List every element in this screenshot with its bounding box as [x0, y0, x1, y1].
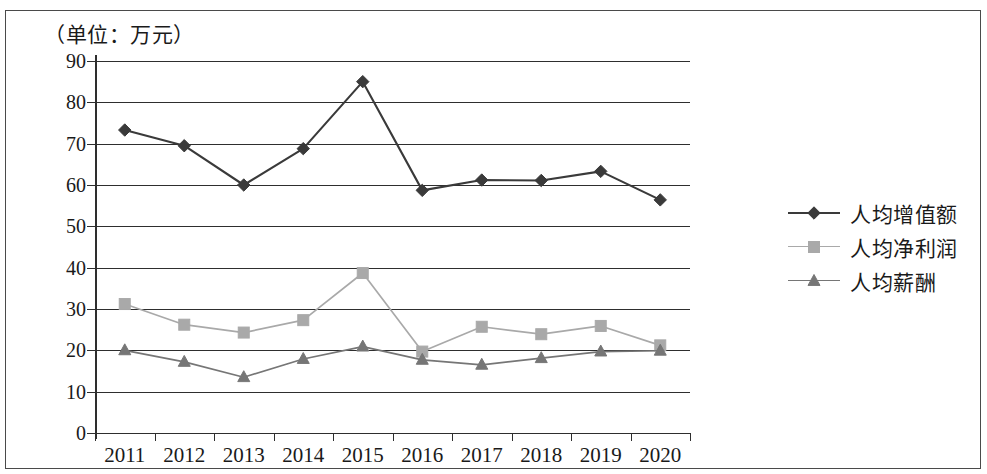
- y-axis-tick-label: 80: [40, 92, 86, 112]
- plot-area: [95, 61, 690, 433]
- square-marker-icon: [179, 319, 190, 330]
- square-marker-icon: [298, 315, 309, 326]
- y-axis-labels: 0102030405060708090: [34, 61, 86, 433]
- legend-item[interactable]: 人均增值额: [788, 196, 968, 230]
- triangle-marker-icon: [808, 274, 820, 285]
- y-axis-tick-mark: [87, 102, 95, 103]
- y-axis-tick-mark: [87, 309, 95, 310]
- diamond-marker-icon: [178, 140, 190, 152]
- y-axis-tick-label: 70: [40, 134, 86, 154]
- legend-item-label: 人均净利润: [850, 232, 958, 262]
- diamond-marker-icon: [654, 194, 666, 206]
- diamond-marker-icon: [238, 179, 250, 191]
- x-axis-tick-mark: [571, 433, 572, 441]
- y-axis-tick-mark: [87, 144, 95, 145]
- y-axis-tick-label: 20: [40, 340, 86, 360]
- x-axis-tick-label: 2019: [571, 443, 631, 467]
- diamond-marker-icon: [595, 165, 607, 177]
- legend-item-label: 人均增值额: [850, 198, 958, 228]
- x-axis-ticks: [95, 433, 690, 443]
- y-axis-tick-mark: [87, 268, 95, 269]
- x-axis-tick-mark: [155, 433, 156, 441]
- x-axis-tick-mark: [274, 433, 275, 441]
- x-axis-tick-mark: [393, 433, 394, 441]
- legend-item-label: 人均薪酬: [850, 266, 936, 296]
- triangle-marker-icon: [806, 273, 822, 289]
- x-axis-tick-mark: [452, 433, 453, 441]
- y-axis-tick-mark: [87, 350, 95, 351]
- square-marker-icon: [536, 329, 547, 340]
- x-axis-tick-mark: [95, 433, 96, 441]
- x-axis-tick-label: 2017: [452, 443, 512, 467]
- diamond-marker-icon: [119, 124, 131, 136]
- x-axis-tick-label: 2014: [274, 443, 334, 467]
- y-axis-tick-label: 30: [40, 299, 86, 319]
- legend-key: [788, 271, 840, 291]
- y-axis-tick-label: 60: [40, 175, 86, 195]
- square-marker-icon: [238, 327, 249, 338]
- y-axis-tick-mark: [87, 61, 95, 62]
- square-marker-icon: [595, 320, 606, 331]
- square-marker-icon: [476, 321, 487, 332]
- legend-key: [788, 203, 840, 223]
- y-axis-tick-mark: [87, 226, 95, 227]
- y-axis-tick-label: 40: [40, 258, 86, 278]
- triangle-marker-icon: [357, 340, 369, 351]
- x-axis-tick-mark: [512, 433, 513, 441]
- diamond-marker-icon: [808, 207, 820, 219]
- triangle-marker-icon: [119, 344, 131, 355]
- x-axis-tick-label: 2015: [333, 443, 393, 467]
- x-axis-labels: 2011201220132014201520162017201820192020: [95, 443, 690, 471]
- x-axis-tick-label: 2016: [393, 443, 453, 467]
- legend-key: [788, 237, 840, 257]
- series-triangle: [119, 340, 667, 382]
- chart-legend: 人均增值额人均净利润人均薪酬: [788, 196, 968, 298]
- series-diamond: [119, 75, 667, 206]
- series-line: [125, 347, 661, 378]
- legend-item[interactable]: 人均薪酬: [788, 264, 968, 298]
- diamond-marker-icon: [806, 205, 822, 221]
- diamond-marker-icon: [476, 174, 488, 186]
- square-marker-icon: [806, 239, 822, 255]
- unit-caption: （单位：万元）: [44, 18, 195, 48]
- y-axis-tick-label: 0: [40, 423, 86, 443]
- diamond-marker-icon: [535, 174, 547, 186]
- x-axis-tick-label: 2020: [631, 443, 691, 467]
- square-marker-icon: [357, 268, 368, 279]
- y-axis-tick-label: 50: [40, 216, 86, 236]
- x-axis-tick-label: 2011: [95, 443, 155, 467]
- triangle-marker-icon: [595, 345, 607, 356]
- x-axis-tick-mark: [333, 433, 334, 441]
- x-axis-tick-mark: [631, 433, 632, 441]
- y-axis-tick-mark: [87, 433, 95, 434]
- series-line: [125, 82, 661, 200]
- series-square: [119, 268, 666, 358]
- series-line: [125, 273, 661, 352]
- series-layer: [95, 61, 690, 433]
- y-axis-tick-mark: [87, 392, 95, 393]
- chart-figure: （单位：万元） 0102030405060708090 201120122013…: [0, 0, 987, 474]
- x-axis-tick-label: 2012: [155, 443, 215, 467]
- x-axis-tick-label: 2013: [214, 443, 274, 467]
- square-marker-icon: [809, 242, 820, 253]
- diamond-marker-icon: [416, 184, 428, 196]
- y-axis-tick-label: 10: [40, 382, 86, 402]
- x-axis-tick-label: 2018: [512, 443, 572, 467]
- square-marker-icon: [119, 299, 130, 310]
- legend-item[interactable]: 人均净利润: [788, 230, 968, 264]
- x-axis-tick-mark: [690, 433, 691, 441]
- y-axis-tick-label: 90: [40, 51, 86, 71]
- y-axis-tick-mark: [87, 185, 95, 186]
- x-axis-tick-mark: [214, 433, 215, 441]
